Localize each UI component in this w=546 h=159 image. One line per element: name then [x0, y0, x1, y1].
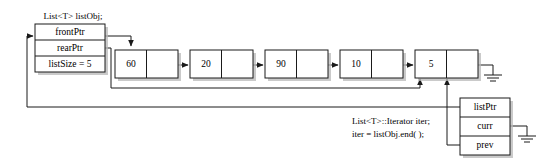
list-node-4[interactable]: 10 — [340, 50, 406, 81]
list-object-caption: List<T> listObj; — [44, 11, 103, 21]
list-node-5[interactable]: 5 — [415, 50, 481, 81]
iterator-field-prev: prev — [477, 140, 494, 150]
listobj-field-listsize: listSize = 5 — [49, 59, 92, 69]
iterator-field-listptr: listPtr — [474, 102, 498, 112]
iterator-caption-line1: List<T>::Iterator iter; — [352, 116, 430, 126]
node-value: 20 — [201, 59, 211, 69]
node-value: 5 — [429, 59, 434, 69]
list-object-box[interactable]: frontPtr rearPtr listSize = 5 — [35, 24, 108, 75]
diagram-canvas: frontPtr rearPtr listSize = 5 List<T> li… — [0, 0, 546, 159]
linked-list-diagram: frontPtr rearPtr listSize = 5 List<T> li… — [0, 0, 546, 159]
list-node-2[interactable]: 20 — [190, 50, 256, 81]
node-value: 10 — [351, 59, 361, 69]
node-value: 90 — [276, 59, 286, 69]
ground-icon-tail — [484, 75, 502, 81]
iterator-caption-line2: iter = listObj.end( ); — [352, 129, 424, 139]
iterator-field-curr: curr — [477, 121, 493, 131]
iterator-box[interactable]: listPtr curr prev — [460, 98, 513, 158]
wire-frontptr-to-node1 — [105, 36, 131, 46]
ground-icon-iterator — [518, 136, 536, 142]
listobj-field-rearptr: rearPtr — [57, 43, 84, 53]
node-value: 60 — [126, 59, 136, 69]
wire-prev-to-node5 — [447, 79, 460, 145]
list-node-3[interactable]: 90 — [265, 50, 331, 81]
listobj-field-frontptr: frontPtr — [55, 27, 85, 37]
list-node-1[interactable]: 60 — [115, 50, 181, 81]
